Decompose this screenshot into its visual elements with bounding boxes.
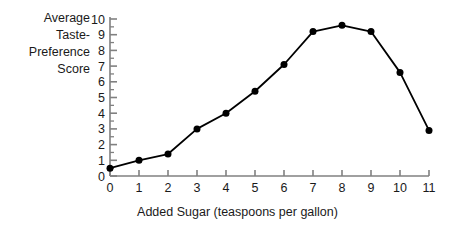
x-tick-label: 9 <box>368 181 375 195</box>
data-point-marker <box>107 165 114 172</box>
x-tick-label: 5 <box>252 181 259 195</box>
data-point-marker <box>252 88 259 95</box>
y-tick-label: 2 <box>98 138 105 152</box>
y-tick-label: 4 <box>98 107 105 121</box>
data-point-marker <box>223 110 230 117</box>
x-tick-label: 7 <box>310 181 317 195</box>
data-point-marker <box>310 28 317 35</box>
data-point-marker <box>397 69 404 76</box>
y-tick-label: 6 <box>98 75 105 89</box>
y-tick-label: 3 <box>98 122 105 136</box>
x-tick-label: 11 <box>423 181 436 195</box>
y-tick-label: 0 <box>98 170 105 184</box>
x-tick-label: 1 <box>136 181 143 195</box>
data-point-marker <box>194 125 201 132</box>
x-axis: 01234567891011 <box>107 170 436 195</box>
data-point-marker <box>165 151 172 158</box>
x-tick-label: 8 <box>339 181 346 195</box>
x-tick-label: 3 <box>194 181 201 195</box>
y-tick-label: 7 <box>98 60 105 74</box>
x-tick-label: 6 <box>281 181 288 195</box>
data-point-marker <box>136 157 143 164</box>
line-chart-plot: 01234567891001234567891011 <box>0 0 475 234</box>
data-point-marker <box>368 28 375 35</box>
x-axis-title: Added Sugar (teaspoons per gallon) <box>0 205 475 219</box>
x-tick-label: 4 <box>223 181 230 195</box>
x-tick-label: 10 <box>393 181 407 195</box>
series-line <box>110 25 429 168</box>
y-tick-label: 9 <box>98 28 105 42</box>
data-point-marker <box>426 127 433 134</box>
y-axis: 012345678910 <box>91 13 117 184</box>
chart-figure: Average Taste- Preference Score 01234567… <box>0 0 475 234</box>
y-tick-label: 5 <box>98 91 105 105</box>
x-tick-label: 0 <box>107 181 114 195</box>
y-tick-label: 1 <box>98 154 105 168</box>
x-tick-label: 2 <box>165 181 172 195</box>
y-tick-label: 10 <box>91 13 105 27</box>
data-point-marker <box>281 61 288 68</box>
data-point-marker <box>339 22 346 29</box>
y-tick-label: 8 <box>98 44 105 58</box>
